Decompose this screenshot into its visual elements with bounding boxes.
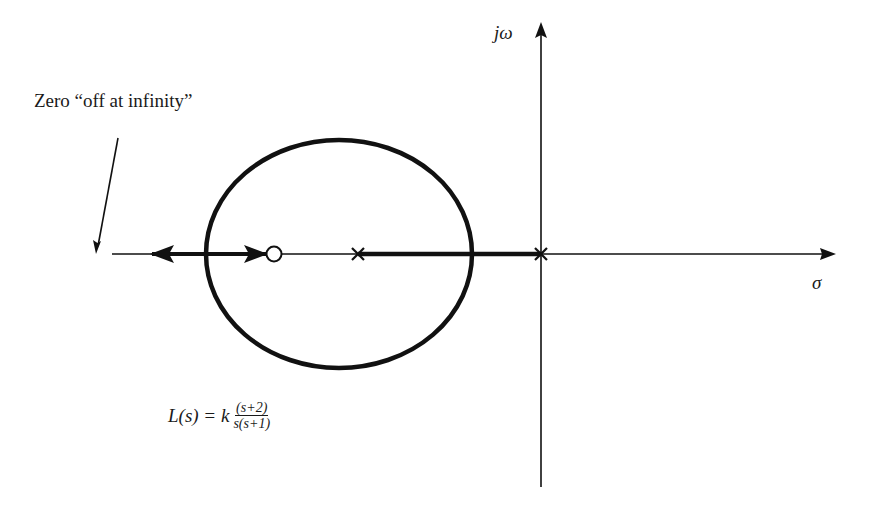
annotation-pointer-arrow	[93, 138, 118, 254]
imag-axis-label: jω	[494, 22, 513, 44]
transfer-function-lhs: L(s) = k	[168, 405, 229, 427]
transfer-function-numerator: (s+2)	[235, 400, 268, 416]
root-locus-plot	[0, 0, 869, 509]
zero-marker-icon	[267, 247, 282, 262]
real-axis-label: σ	[812, 272, 821, 294]
zero-at-infinity-annotation: Zero “off at infinity”	[34, 90, 192, 112]
transfer-function-denominator: s(s+1)	[233, 416, 270, 431]
real-axis-arrow-icon	[820, 248, 836, 260]
transfer-function: L(s) = k (s+2) s(s+1)	[168, 400, 270, 431]
transfer-function-fraction: (s+2) s(s+1)	[233, 400, 270, 431]
